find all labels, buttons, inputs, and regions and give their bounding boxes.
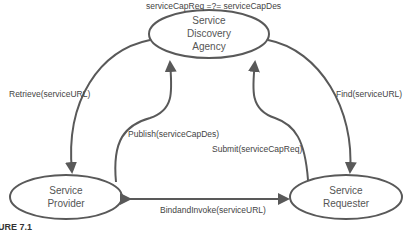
provider-line1: Service <box>16 184 116 197</box>
retrieve-arrow <box>71 40 150 172</box>
publish-label: Publish(serviceCapDes) <box>128 129 219 139</box>
find-label: Find(serviceURL) <box>336 89 402 99</box>
provider-node: Service Provider <box>16 184 116 210</box>
condition-label: serviceCapReq =?= serviceCapDes <box>146 1 281 11</box>
requester-line2: Requester <box>296 197 396 210</box>
submit-label: Submit(serviceCapReq) <box>212 144 302 154</box>
publish-arrow <box>115 62 171 182</box>
agency-node: Service Discovery Agency <box>159 14 259 53</box>
provider-line2: Provider <box>16 197 116 210</box>
submit-arrow <box>253 62 308 180</box>
agency-line3: Agency <box>159 40 259 53</box>
requester-line1: Service <box>296 184 396 197</box>
requester-node: Service Requester <box>296 184 396 210</box>
agency-line1: Service <box>159 14 259 27</box>
retrieve-label: Retrieve(serviceURL) <box>9 89 90 99</box>
agency-line2: Discovery <box>159 27 259 40</box>
figure-caption: URE 7.1 <box>0 222 32 232</box>
bind-label: BindandInvoke(serviceURL) <box>160 205 266 215</box>
